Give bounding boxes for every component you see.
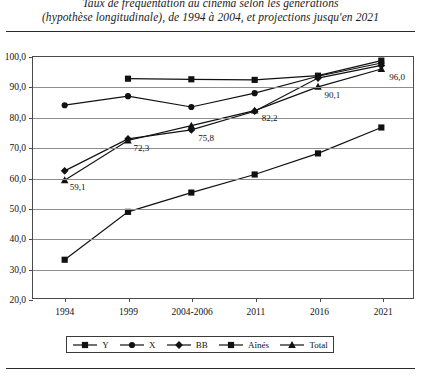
data-label: 59,1 xyxy=(70,182,86,192)
legend-label: Aînés xyxy=(248,340,269,350)
x-axis-label: 1999 xyxy=(119,307,138,317)
series-line-total xyxy=(65,69,382,180)
data-label: 75,8 xyxy=(198,133,214,143)
legend-label: X xyxy=(149,340,156,350)
legend-item-x[interactable]: X xyxy=(119,339,156,351)
y-axis-tick xyxy=(29,209,33,210)
square-marker-icon xyxy=(315,150,321,156)
legend-item-a-n-s[interactable]: Aînés xyxy=(218,339,269,351)
circle-marker-icon xyxy=(62,102,68,108)
series-line-x xyxy=(65,63,382,107)
circle-marker-icon xyxy=(129,341,135,347)
y-axis-label: 60,0 xyxy=(9,174,26,184)
y-axis-label: 30,0 xyxy=(9,265,26,275)
gridline xyxy=(33,118,413,119)
y-axis-tick xyxy=(29,270,33,271)
legend-item-bb[interactable]: BB xyxy=(166,339,208,351)
gridline xyxy=(33,209,413,210)
data-label: 90,1 xyxy=(325,90,341,100)
x-axis-tick xyxy=(192,298,193,302)
y-axis-label: 100,0 xyxy=(5,52,26,62)
square-marker-icon xyxy=(378,124,384,130)
x-axis-label: 2016 xyxy=(310,307,329,317)
triangle-marker-icon xyxy=(61,176,69,183)
square-marker-icon xyxy=(188,76,194,82)
chart-title-line-2: (hypothèse longitudinale), de 1994 à 200… xyxy=(0,10,421,24)
circle-marker-icon xyxy=(188,104,194,110)
square-marker-icon xyxy=(62,257,68,263)
y-axis-tick xyxy=(29,118,33,119)
divider-bottom xyxy=(6,368,415,369)
triangle-marker-icon xyxy=(279,339,305,351)
y-axis-label: 50,0 xyxy=(9,204,26,214)
circle-marker-icon xyxy=(119,339,145,351)
chart-legend: YXBBAînésTotal xyxy=(66,336,334,353)
square-marker-icon xyxy=(72,339,98,351)
y-axis-label: 90,0 xyxy=(9,82,26,92)
gridline xyxy=(33,87,413,88)
gridline xyxy=(33,179,413,180)
x-axis-label: 2004-2006 xyxy=(172,307,213,317)
legend-item-total[interactable]: Total xyxy=(279,339,327,351)
square-marker-icon xyxy=(82,341,88,347)
series-layer xyxy=(33,57,413,298)
circle-marker-icon xyxy=(252,90,258,96)
chart-title: Taux de fréquentation au cinéma selon le… xyxy=(0,0,421,24)
gridline xyxy=(33,239,413,240)
data-label: 72,3 xyxy=(134,143,150,153)
y-axis-label: 20,0 xyxy=(9,295,26,305)
y-axis-tick xyxy=(29,300,33,301)
gridline xyxy=(33,270,413,271)
square-marker-icon xyxy=(228,341,234,347)
square-marker-icon xyxy=(252,77,258,83)
gridline xyxy=(33,148,413,149)
square-marker-icon xyxy=(125,76,131,82)
x-axis-label: 2021 xyxy=(374,307,393,317)
y-axis-tick xyxy=(29,87,33,88)
diamond-marker-icon xyxy=(166,339,192,351)
chart-page: Taux de fréquentation au cinéma selon le… xyxy=(0,0,421,377)
x-axis-tick xyxy=(256,298,257,302)
diamond-marker-icon xyxy=(175,341,183,349)
square-marker-icon xyxy=(218,339,244,351)
legend-label: Total xyxy=(309,340,327,350)
square-marker-icon xyxy=(252,171,258,177)
y-axis-tick xyxy=(29,179,33,180)
legend-label: BB xyxy=(196,340,208,350)
x-axis-tick xyxy=(320,298,321,302)
y-axis-label: 70,0 xyxy=(9,143,26,153)
x-axis-tick xyxy=(383,298,384,302)
x-axis-label: 2011 xyxy=(247,307,266,317)
legend-item-y[interactable]: Y xyxy=(72,339,109,351)
data-label: 96,0 xyxy=(389,72,405,82)
data-label: 82,2 xyxy=(262,113,278,123)
chart-title-line-1: Taux de fréquentation au cinéma selon le… xyxy=(0,0,421,10)
y-axis-label: 40,0 xyxy=(9,234,26,244)
divider-top xyxy=(6,31,415,32)
legend-label: Y xyxy=(102,340,109,350)
y-axis-tick xyxy=(29,57,33,58)
circle-marker-icon xyxy=(125,93,131,99)
y-axis-tick xyxy=(29,239,33,240)
diamond-marker-icon xyxy=(61,167,69,175)
y-axis-label: 80,0 xyxy=(9,113,26,123)
plot-area: 100,090,080,070,060,050,040,030,020,0199… xyxy=(32,56,414,299)
x-axis-tick xyxy=(129,298,130,302)
square-marker-icon xyxy=(188,189,194,195)
x-axis-tick xyxy=(65,298,66,302)
x-axis-label: 1994 xyxy=(55,307,74,317)
y-axis-tick xyxy=(29,148,33,149)
